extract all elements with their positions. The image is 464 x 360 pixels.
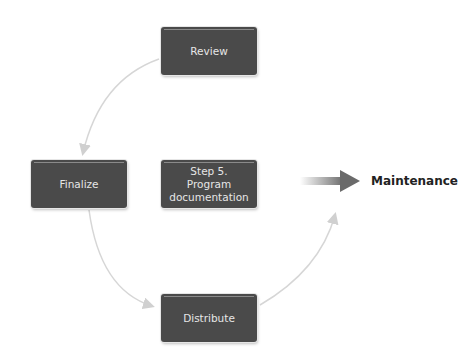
output-arrow-icon (300, 170, 360, 192)
arrow-distribute-to-review (260, 215, 335, 305)
arrow-finalize-to-distribute (89, 210, 152, 306)
arrow-review-to-finalize (83, 59, 159, 153)
node-review: Review (161, 27, 257, 75)
output-label: Maintenance (371, 174, 458, 188)
node-finalize: Finalize (31, 160, 127, 208)
node-distribute: Distribute (161, 294, 257, 342)
node-program-documentation: Step 5. Program documentation (161, 160, 257, 208)
